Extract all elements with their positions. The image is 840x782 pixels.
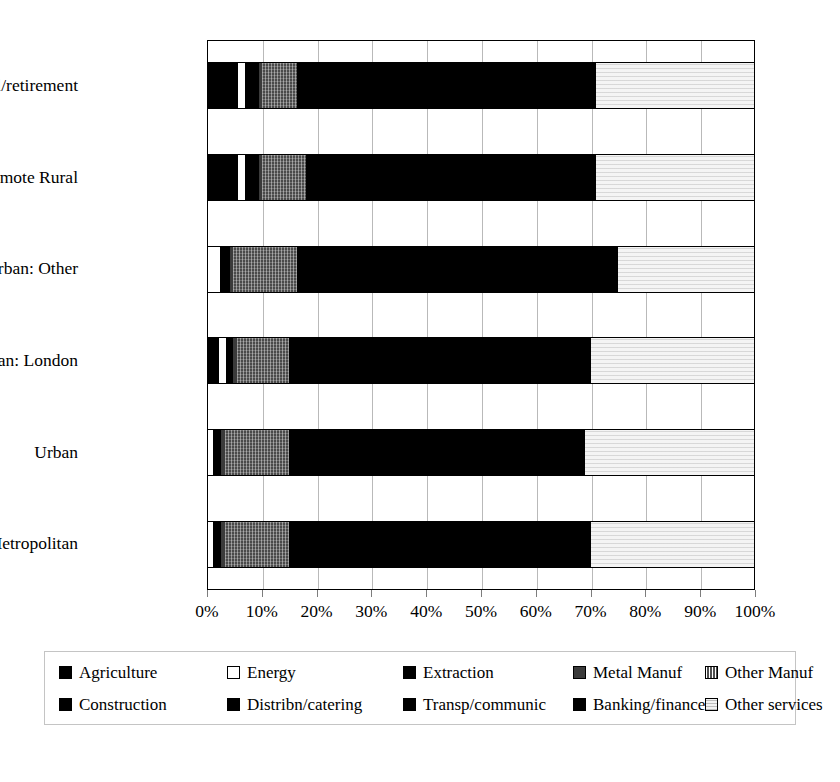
- legend-item[interactable]: Agriculture: [59, 664, 227, 681]
- bar-segment[interactable]: [289, 337, 322, 384]
- legend-swatch-icon: [403, 666, 416, 679]
- category-label: Coastal/retirement: [0, 77, 78, 95]
- bar-segment[interactable]: [262, 154, 306, 201]
- bar-segment[interactable]: [297, 62, 330, 109]
- bar-segment[interactable]: [221, 246, 230, 293]
- bar-segment[interactable]: [246, 62, 259, 109]
- bar-segment[interactable]: [233, 246, 297, 293]
- bar-row[interactable]: [207, 429, 755, 476]
- bar-row[interactable]: [207, 246, 755, 293]
- legend-swatch-icon: [59, 698, 72, 711]
- legend-label: Energy: [247, 664, 296, 681]
- category-label: Remote Rural: [0, 169, 78, 187]
- x-tick-label: 100%: [720, 603, 790, 621]
- legend-item[interactable]: Transp/communic: [403, 696, 573, 713]
- bar-row[interactable]: [207, 154, 755, 201]
- bar-segment[interactable]: [443, 521, 509, 568]
- bar-segment[interactable]: [508, 429, 585, 476]
- x-tick-mark: [700, 590, 701, 597]
- bar-segment[interactable]: [596, 154, 755, 201]
- legend-item[interactable]: Construction: [59, 696, 227, 713]
- legend-item[interactable]: Banking/finance: [573, 696, 705, 713]
- bar-segment[interactable]: [618, 246, 755, 293]
- bar-segment[interactable]: [508, 521, 590, 568]
- legend-item[interactable]: Other services: [705, 696, 823, 713]
- x-tick-mark: [591, 590, 592, 597]
- bar-segment[interactable]: [207, 154, 237, 201]
- bar-segment[interactable]: [207, 246, 221, 293]
- bar-segment[interactable]: [237, 62, 246, 109]
- legend-swatch-icon: [705, 666, 718, 679]
- x-tick-mark: [755, 590, 756, 597]
- bar-segment[interactable]: [517, 62, 596, 109]
- bar-segment[interactable]: [289, 521, 322, 568]
- bar-row[interactable]: [207, 62, 755, 109]
- bar-segment[interactable]: [591, 337, 755, 384]
- legend-swatch-icon: [227, 666, 240, 679]
- legend-item[interactable]: Other Manuf: [705, 664, 823, 681]
- legend-swatch-icon: [403, 698, 416, 711]
- legend-label: Other Manuf: [725, 664, 813, 681]
- legend-label: Construction: [79, 696, 167, 713]
- legend-label: Transp/communic: [423, 696, 546, 713]
- bar-segment[interactable]: [246, 154, 259, 201]
- bar-segment[interactable]: [207, 62, 237, 109]
- bar-segment[interactable]: [207, 429, 214, 476]
- legend-swatch-icon: [705, 698, 718, 711]
- bar-segment[interactable]: [262, 62, 298, 109]
- bar-segment[interactable]: [225, 429, 290, 476]
- bar-segment[interactable]: [443, 429, 509, 476]
- bar-segment[interactable]: [591, 521, 755, 568]
- bar-segment[interactable]: [525, 154, 596, 201]
- legend-swatch-icon: [573, 698, 586, 711]
- chart-legend: AgricultureEnergyExtractionMetal ManufOt…: [44, 651, 796, 725]
- stacked-bar-chart: Coastal/retirementRemote RuralPeri-urban…: [0, 0, 840, 782]
- bar-segment[interactable]: [214, 521, 221, 568]
- bar-segment[interactable]: [330, 62, 451, 109]
- bar-segment[interactable]: [207, 337, 218, 384]
- bar-segment[interactable]: [339, 154, 460, 201]
- legend-label: Agriculture: [79, 664, 157, 681]
- bar-segment[interactable]: [225, 521, 290, 568]
- bar-segment[interactable]: [322, 337, 443, 384]
- bar-segment[interactable]: [227, 337, 234, 384]
- bar-segment[interactable]: [306, 154, 339, 201]
- legend-swatch-icon: [59, 666, 72, 679]
- bar-segment[interactable]: [451, 246, 517, 293]
- bar-segment[interactable]: [218, 337, 227, 384]
- bar-segment[interactable]: [289, 429, 322, 476]
- bar-segment[interactable]: [207, 521, 214, 568]
- x-tick-mark: [317, 590, 318, 597]
- legend-label: Extraction: [423, 664, 494, 681]
- bar-segment[interactable]: [322, 429, 443, 476]
- legend-item[interactable]: Energy: [227, 664, 403, 681]
- legend-swatch-icon: [227, 698, 240, 711]
- bar-segment[interactable]: [459, 154, 525, 201]
- legend-label: Metal Manuf: [593, 664, 682, 681]
- x-tick-mark: [371, 590, 372, 597]
- bar-segment[interactable]: [451, 62, 517, 109]
- x-tick-mark: [536, 590, 537, 597]
- x-tick-mark: [207, 590, 208, 597]
- legend-item[interactable]: Metal Manuf: [573, 664, 705, 681]
- bar-segment[interactable]: [508, 337, 590, 384]
- bar-segment[interactable]: [322, 521, 443, 568]
- bar-segment[interactable]: [214, 429, 221, 476]
- legend-label: Distribn/catering: [247, 696, 362, 713]
- bar-segment[interactable]: [585, 429, 755, 476]
- bar-segment[interactable]: [517, 246, 618, 293]
- bar-segment[interactable]: [443, 337, 509, 384]
- bar-row[interactable]: [207, 521, 755, 568]
- bar-row[interactable]: [207, 337, 755, 384]
- bar-segment[interactable]: [237, 154, 246, 201]
- bar-segment[interactable]: [596, 62, 755, 109]
- legend-item[interactable]: Extraction: [403, 664, 573, 681]
- category-label: Peri-urban: Other: [0, 260, 78, 278]
- legend-item[interactable]: Distribn/catering: [227, 696, 403, 713]
- bar-segment[interactable]: [330, 246, 451, 293]
- x-tick-mark: [262, 590, 263, 597]
- x-tick-mark: [645, 590, 646, 597]
- bar-segment[interactable]: [237, 337, 290, 384]
- bar-segment[interactable]: [297, 246, 330, 293]
- category-label: Urban: [0, 444, 78, 462]
